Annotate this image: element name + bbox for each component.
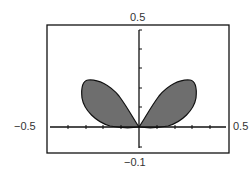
right-lobe: [139, 80, 196, 128]
x-right-label: 0.5: [233, 121, 248, 132]
left-lobe: [82, 80, 139, 128]
plot-frame: [47, 25, 229, 153]
y-bottom-label: −0.1: [124, 157, 146, 168]
x-left-label: −0.5: [14, 121, 36, 132]
y-top-label: 0.5: [130, 12, 145, 23]
plot: [0, 0, 251, 172]
